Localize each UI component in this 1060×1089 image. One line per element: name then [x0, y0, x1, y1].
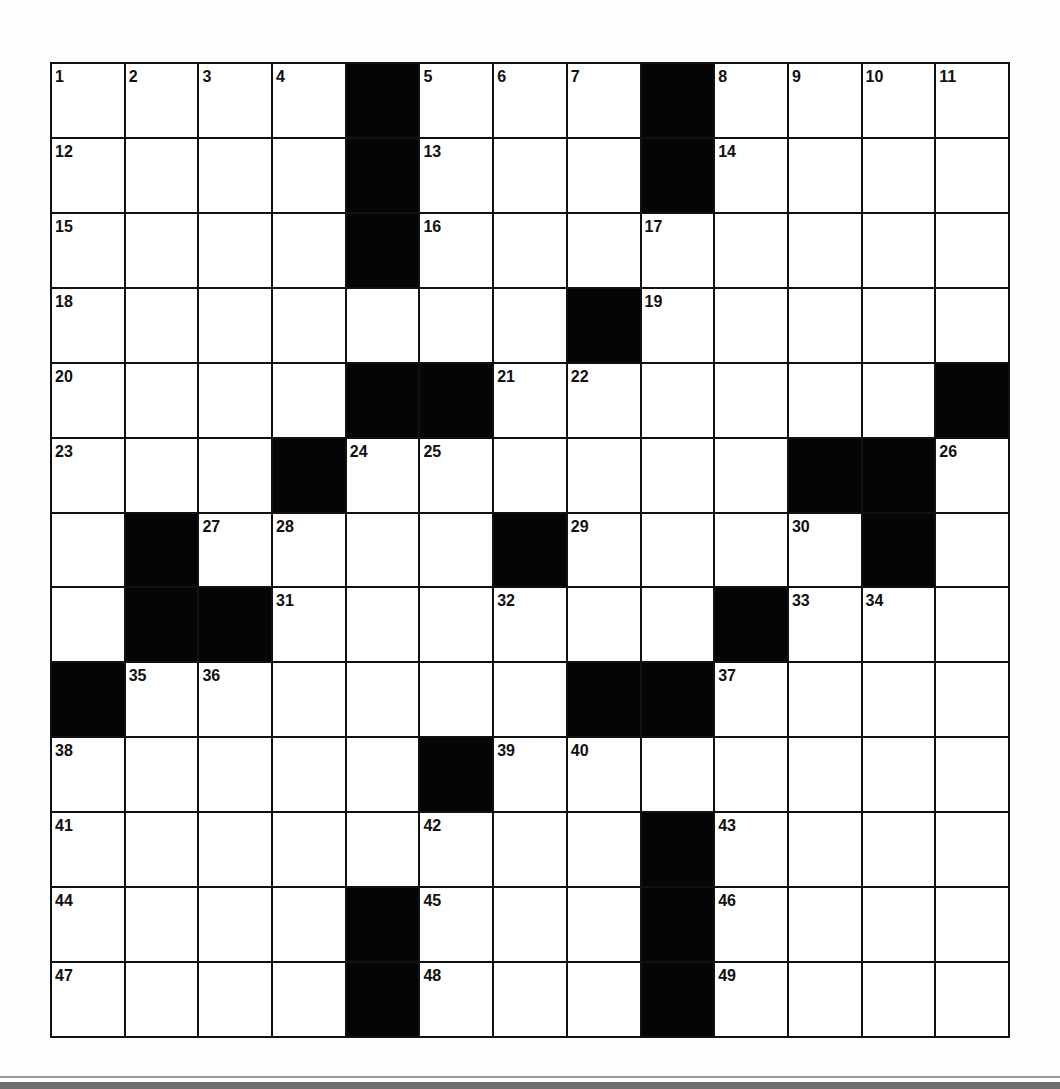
grid-cell[interactable] [126, 139, 198, 212]
grid-cell[interactable] [420, 289, 492, 362]
grid-cell[interactable]: 44 [52, 888, 124, 961]
grid-cell[interactable] [347, 588, 419, 661]
grid-cell[interactable]: 4 [273, 64, 345, 137]
grid-cell[interactable] [420, 663, 492, 736]
grid-cell[interactable] [936, 214, 1008, 287]
grid-cell[interactable]: 45 [420, 888, 492, 961]
grid-cell[interactable]: 3 [199, 64, 271, 137]
grid-cell[interactable] [347, 514, 419, 587]
grid-cell[interactable] [715, 214, 787, 287]
grid-cell[interactable]: 23 [52, 439, 124, 512]
grid-cell[interactable] [863, 289, 935, 362]
grid-cell[interactable]: 18 [52, 289, 124, 362]
grid-cell[interactable]: 27 [199, 514, 271, 587]
grid-cell[interactable] [199, 738, 271, 811]
grid-cell[interactable] [347, 738, 419, 811]
grid-cell[interactable]: 14 [715, 139, 787, 212]
grid-cell[interactable]: 21 [494, 364, 566, 437]
grid-cell[interactable] [199, 963, 271, 1036]
grid-cell[interactable] [126, 364, 198, 437]
grid-cell[interactable] [347, 813, 419, 886]
grid-cell[interactable] [199, 139, 271, 212]
grid-cell[interactable] [936, 514, 1008, 587]
grid-cell[interactable] [863, 963, 935, 1036]
grid-cell[interactable] [126, 439, 198, 512]
grid-cell[interactable]: 38 [52, 738, 124, 811]
grid-cell[interactable]: 43 [715, 813, 787, 886]
grid-cell[interactable] [273, 963, 345, 1036]
grid-cell[interactable] [420, 588, 492, 661]
grid-cell[interactable] [347, 663, 419, 736]
grid-cell[interactable]: 15 [52, 214, 124, 287]
grid-cell[interactable] [568, 139, 640, 212]
grid-cell[interactable] [273, 738, 345, 811]
grid-cell[interactable] [199, 364, 271, 437]
grid-cell[interactable] [936, 588, 1008, 661]
grid-cell[interactable]: 35 [126, 663, 198, 736]
grid-cell[interactable]: 24 [347, 439, 419, 512]
grid-cell[interactable] [789, 813, 861, 886]
grid-cell[interactable] [494, 963, 566, 1036]
grid-cell[interactable] [568, 963, 640, 1036]
grid-cell[interactable]: 30 [789, 514, 861, 587]
grid-cell[interactable] [199, 214, 271, 287]
grid-cell[interactable]: 2 [126, 64, 198, 137]
grid-cell[interactable] [642, 364, 714, 437]
grid-cell[interactable] [863, 139, 935, 212]
grid-cell[interactable] [494, 139, 566, 212]
grid-cell[interactable] [126, 963, 198, 1036]
grid-cell[interactable] [347, 289, 419, 362]
grid-cell[interactable] [715, 289, 787, 362]
grid-cell[interactable]: 7 [568, 64, 640, 137]
grid-cell[interactable] [715, 439, 787, 512]
grid-cell[interactable] [568, 439, 640, 512]
grid-cell[interactable] [199, 289, 271, 362]
grid-cell[interactable] [863, 813, 935, 886]
grid-cell[interactable]: 33 [789, 588, 861, 661]
grid-cell[interactable] [642, 588, 714, 661]
grid-cell[interactable]: 37 [715, 663, 787, 736]
grid-cell[interactable]: 47 [52, 963, 124, 1036]
grid-cell[interactable]: 28 [273, 514, 345, 587]
grid-cell[interactable] [789, 214, 861, 287]
grid-cell[interactable]: 5 [420, 64, 492, 137]
grid-cell[interactable] [715, 364, 787, 437]
grid-cell[interactable]: 46 [715, 888, 787, 961]
grid-cell[interactable]: 12 [52, 139, 124, 212]
grid-cell[interactable]: 13 [420, 139, 492, 212]
grid-cell[interactable] [273, 888, 345, 961]
grid-cell[interactable]: 10 [863, 64, 935, 137]
grid-cell[interactable] [199, 888, 271, 961]
grid-cell[interactable] [494, 888, 566, 961]
grid-cell[interactable] [273, 289, 345, 362]
grid-cell[interactable]: 39 [494, 738, 566, 811]
grid-cell[interactable] [642, 514, 714, 587]
grid-cell[interactable] [789, 139, 861, 212]
grid-cell[interactable] [789, 888, 861, 961]
grid-cell[interactable] [863, 214, 935, 287]
grid-cell[interactable] [568, 813, 640, 886]
grid-cell[interactable]: 40 [568, 738, 640, 811]
grid-cell[interactable]: 11 [936, 64, 1008, 137]
grid-cell[interactable] [642, 439, 714, 512]
grid-cell[interactable] [863, 888, 935, 961]
grid-cell[interactable]: 29 [568, 514, 640, 587]
grid-cell[interactable] [273, 214, 345, 287]
grid-cell[interactable]: 49 [715, 963, 787, 1036]
grid-cell[interactable] [273, 139, 345, 212]
grid-cell[interactable] [126, 214, 198, 287]
grid-cell[interactable] [789, 289, 861, 362]
grid-cell[interactable] [789, 663, 861, 736]
grid-cell[interactable] [936, 289, 1008, 362]
grid-cell[interactable]: 6 [494, 64, 566, 137]
grid-cell[interactable]: 19 [642, 289, 714, 362]
grid-cell[interactable] [568, 214, 640, 287]
grid-cell[interactable]: 48 [420, 963, 492, 1036]
grid-cell[interactable] [52, 514, 124, 587]
grid-cell[interactable] [126, 813, 198, 886]
grid-cell[interactable] [789, 364, 861, 437]
grid-cell[interactable] [273, 813, 345, 886]
grid-cell[interactable] [789, 963, 861, 1036]
grid-cell[interactable]: 8 [715, 64, 787, 137]
grid-cell[interactable] [273, 364, 345, 437]
